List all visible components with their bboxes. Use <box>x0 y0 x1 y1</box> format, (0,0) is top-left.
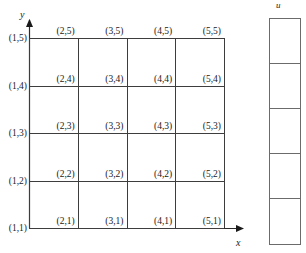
node-label: (3,3) <box>78 122 124 132</box>
node-label: (2,1) <box>29 217 75 227</box>
u-column-cell <box>270 199 300 244</box>
y-axis-label: y <box>20 10 24 20</box>
grid-line-vertical <box>29 38 30 228</box>
row-axis-label: (1,3) <box>1 129 27 139</box>
u-column-cell <box>270 109 300 154</box>
grid-coordinate-figure: y x (1,5)(1,4)(1,3)(1,2)(1,1) (2,5)(3,5)… <box>0 0 306 253</box>
u-column-cell <box>270 154 300 199</box>
u-column-cell <box>270 64 300 109</box>
node-label: (5,2) <box>175 170 221 180</box>
node-label: (3,2) <box>78 170 124 180</box>
grid-line-vertical <box>78 38 79 228</box>
node-label: (2,4) <box>29 75 75 85</box>
row-axis-label: (1,4) <box>1 82 27 92</box>
node-label: (2,2) <box>29 170 75 180</box>
node-label: (5,5) <box>175 27 221 37</box>
node-label: (3,5) <box>78 27 124 37</box>
node-label: (4,1) <box>127 217 173 227</box>
grid-line-vertical <box>127 38 128 228</box>
node-label: (4,4) <box>127 75 173 85</box>
grid-line-vertical <box>224 38 225 228</box>
node-label: (5,4) <box>175 75 221 85</box>
grid-line-horizontal <box>29 228 224 229</box>
u-column <box>269 18 301 245</box>
u-column-label: u <box>276 1 281 10</box>
row-axis-label: (1,1) <box>1 224 27 234</box>
node-label: (4,5) <box>127 27 173 37</box>
node-label: (2,5) <box>29 27 75 37</box>
node-label: (3,1) <box>78 217 124 227</box>
u-column-cell <box>270 19 300 64</box>
node-label: (2,3) <box>29 122 75 132</box>
row-axis-label: (1,2) <box>1 177 27 187</box>
node-label: (5,1) <box>175 217 221 227</box>
node-label: (5,3) <box>175 122 221 132</box>
grid-line-vertical <box>175 38 176 228</box>
row-axis-label: (1,5) <box>1 34 27 44</box>
node-label: (3,4) <box>78 75 124 85</box>
node-label: (4,3) <box>127 122 173 132</box>
x-axis-label: x <box>236 238 240 248</box>
node-label: (4,2) <box>127 170 173 180</box>
coordinate-grid <box>29 38 224 228</box>
